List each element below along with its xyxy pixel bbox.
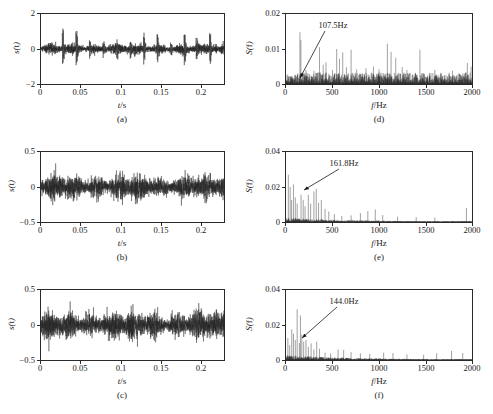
panel-c-xtick-0: 0: [38, 364, 42, 373]
panel-b-ytick-0: 0.5: [16, 147, 35, 156]
panel-a: 0 0.05 0.1 0.15 0.2 2 0 −2 s(t) t/s (a): [0, 0, 246, 138]
panel-b-xtick-2: 0.1: [116, 226, 127, 235]
panel-b-ytick-1: 0: [16, 183, 35, 192]
panel-f: 0 500 1000 1500 2000 0.04 0.02 0 S(f) f/…: [247, 276, 493, 414]
panel-b-xtick-1: 0.05: [73, 226, 88, 235]
panel-c-xlabel: t/s: [118, 376, 127, 386]
panel-b-xlabel: t/s: [118, 238, 127, 248]
panel-c-xtick-3: 0.15: [154, 364, 169, 373]
panel-b-caption: (b): [117, 252, 128, 262]
panel-b-plot-area: [40, 151, 225, 223]
panel-a-plot-area: [40, 13, 225, 85]
panel-c-xtick-4: 0.2: [196, 364, 207, 373]
panel-b-xtick-3: 0.15: [154, 226, 169, 235]
panel-f-annotation-arrow: [247, 276, 493, 414]
panel-a-ytick-0: 2: [22, 9, 35, 18]
panel-b-xtick-0: 0: [38, 226, 42, 235]
panel-a-xtick-3: 0.15: [154, 88, 169, 97]
panel-c-caption: (c): [117, 390, 127, 400]
panel-a-xtick-4: 0.2: [196, 88, 207, 97]
panel-d-annotation-arrow: [247, 0, 493, 138]
panel-c-xtick-1: 0.05: [73, 364, 88, 373]
panel-c-ytick-1: 0: [16, 321, 35, 330]
panel-a-trace: [41, 14, 224, 84]
panel-b-ytick-2: −0.5: [12, 218, 35, 227]
panel-a-xtick-0: 0: [38, 88, 42, 97]
panel-b-trace: [41, 152, 224, 222]
panel-a-ylabel: s(t): [11, 31, 21, 65]
figure-root: 0 0.05 0.1 0.15 0.2 2 0 −2 s(t) t/s (a) …: [0, 0, 493, 414]
panel-e: 0 500 1000 1500 2000 0.04 0.02 0 S(f) f/…: [247, 138, 493, 276]
panel-c-ytick-0: 0.5: [16, 285, 35, 294]
panel-a-ytick-1: 0: [22, 45, 35, 54]
panel-a-ytick-2: −2: [18, 80, 35, 89]
panel-c-ylabel: s(t): [6, 307, 16, 341]
panel-c-trace: [41, 290, 224, 360]
panel-c: 0 0.05 0.1 0.15 0.2 0.5 0 −0.5 s(t) t/s …: [0, 276, 246, 414]
panel-b: 0 0.05 0.1 0.15 0.2 0.5 0 −0.5 s(t) t/s …: [0, 138, 246, 276]
panel-e-annotation-arrow: [247, 138, 493, 276]
panel-a-caption: (a): [117, 114, 127, 124]
panel-a-xlabel: t/s: [118, 100, 127, 110]
panel-a-xtick-2: 0.1: [116, 88, 127, 97]
panel-c-plot-area: [40, 289, 225, 361]
panel-b-xtick-4: 0.2: [196, 226, 207, 235]
panel-d: 0 500 1000 1500 2000 0.02 0.01 0 S(f) f/…: [247, 0, 493, 138]
panel-c-xtick-2: 0.1: [116, 364, 127, 373]
panel-c-ytick-2: −0.5: [12, 356, 35, 365]
panel-a-xtick-1: 0.05: [73, 88, 88, 97]
panel-b-ylabel: s(t): [6, 169, 16, 203]
